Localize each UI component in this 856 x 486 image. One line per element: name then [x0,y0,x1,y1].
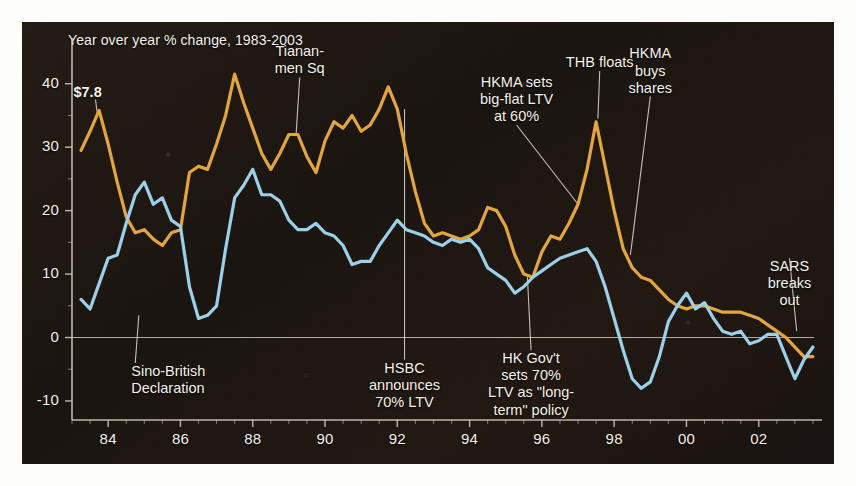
series-line-blue-series [81,169,813,388]
y-axis-tick-label: 10 [22,264,59,281]
annotation-leader-tiananmen-square [296,77,300,134]
x-axis-tick-label: 98 [584,430,644,447]
x-axis-tick-label: 84 [78,430,138,447]
annotation-leader-hkma-buys-shares [630,96,650,255]
x-axis-tick-label: 92 [367,430,427,447]
annotation-hkma-sets-big-flat-ltv-60: HKMA sets big-flat LTV at 60% [452,74,582,125]
x-axis-tick-label: 90 [295,430,355,447]
series-line-gold-series [81,74,813,356]
annotation-hsbc-announces-70-ltv: HSBC announces 70% LTV [340,360,470,411]
y-axis-tick-label: 20 [22,201,59,218]
figure-container: Year over year % change, 1983-2003 40302… [0,0,856,486]
value-label-peak: $7.8 [73,84,101,100]
y-axis-tick-label: 0 [22,328,59,345]
annotation-sino-british-declaration: Sino-British Declaration [131,363,261,397]
x-axis-tick-label: 96 [512,430,572,447]
annotation-sars-breaks-out: SARS breaks out [724,258,834,309]
annotation-hkma-buys-shares: HKMA buys shares [585,45,715,96]
y-axis-tick-label: -10 [22,391,59,408]
y-axis-tick-label: 40 [22,74,59,91]
x-axis-tick-label: 86 [150,430,210,447]
annotation-tiananmen-square: Tianan- men Sq [235,43,365,77]
annotation-leader-hkma-sets-big-flat-ltv-60 [517,125,578,204]
annotation-leader-hk-govt-sets-70-ltv-long-term [527,277,531,350]
x-axis-tick-label: 02 [729,430,789,447]
y-axis-tick-label: 30 [22,137,59,154]
x-axis-tick-label: 00 [656,430,716,447]
annotation-hk-govt-sets-70-ltv-long-term: HK Gov't sets 70% LTV as "long- term" po… [466,350,596,418]
x-axis-tick-label: 88 [223,430,283,447]
x-axis-tick-label: 94 [440,430,500,447]
chart-plot-area: Year over year % change, 1983-2003 40302… [22,22,834,464]
annotation-leader-sino-british-declaration [135,315,139,363]
